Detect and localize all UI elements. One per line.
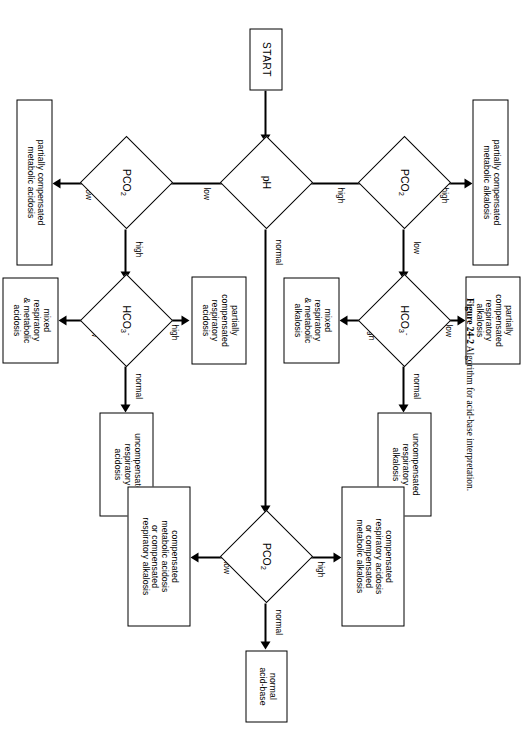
figure-caption: Figure 24-2 Algorithm for acid-base inte… — [465, 298, 475, 491]
figure-caption-wrapper: Figure 24-2 Algorithm for acid-base inte… — [0, 0, 530, 745]
figure-page: high low normal high low low normal high… — [0, 0, 530, 745]
figure-caption-label: Figure 24-2 — [465, 298, 475, 344]
figure-caption-text: Algorithm for acid-base interpretation. — [465, 346, 475, 491]
